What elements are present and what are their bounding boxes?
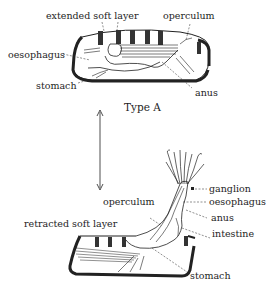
label-ganglion: ganglion xyxy=(209,184,251,194)
label-retracted-soft-layer: retracted soft layer xyxy=(24,219,117,229)
label-anus-a: anus xyxy=(195,88,218,98)
label-operculum-a: operculum xyxy=(163,11,215,21)
label-oesophagus-b: oesophagus xyxy=(209,197,266,207)
label-stomach-b: stomach xyxy=(190,271,231,281)
zooid-type-b xyxy=(70,150,210,276)
label-anus-b: anus xyxy=(211,213,234,223)
caption-type-a: Type A xyxy=(124,101,161,113)
zooid-type-a xyxy=(63,22,209,88)
label-extended-soft-layer: extended soft layer xyxy=(46,11,139,21)
zooid-diagram xyxy=(0,0,273,294)
label-operculum-b: operculum xyxy=(103,197,155,207)
double-arrow-icon xyxy=(97,110,103,190)
label-stomach-a: stomach xyxy=(36,81,77,91)
label-intestine: intestine xyxy=(212,229,254,239)
label-oesophagus-a: oesophagus xyxy=(8,50,65,60)
